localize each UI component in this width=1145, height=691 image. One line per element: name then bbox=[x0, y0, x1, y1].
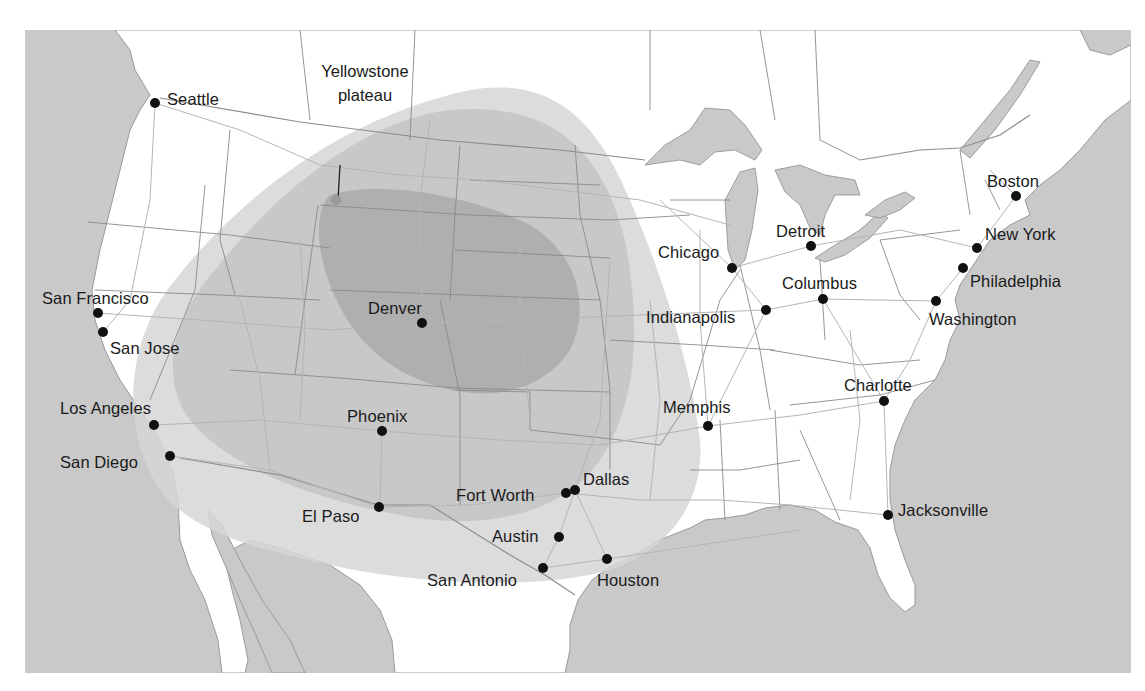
city-label-dallas: Dallas bbox=[583, 471, 629, 488]
city-dot-dallas bbox=[570, 485, 580, 495]
city-dot-memphis bbox=[703, 421, 713, 431]
city-dot-charlotte bbox=[879, 396, 889, 406]
city-dot-denver bbox=[417, 318, 427, 328]
city-label-chicago: Chicago bbox=[658, 244, 719, 261]
city-dot-los-angeles bbox=[149, 420, 159, 430]
city-label-san-antonio: San Antonio bbox=[427, 572, 517, 589]
city-dot-washington bbox=[931, 296, 941, 306]
city-dot-san-jose bbox=[98, 327, 108, 337]
city-dot-detroit bbox=[806, 241, 816, 251]
city-dot-columbus bbox=[818, 294, 828, 304]
city-label-indianapolis: Indianapolis bbox=[646, 309, 735, 326]
city-dot-austin bbox=[554, 532, 564, 542]
city-label-washington: Washington bbox=[929, 311, 1017, 328]
city-dot-phoenix bbox=[377, 426, 387, 436]
us-map: Yellowstone plateau bbox=[25, 30, 1131, 673]
city-dot-chicago bbox=[727, 263, 737, 273]
city-dot-el-paso bbox=[374, 502, 384, 512]
yellowstone-marker bbox=[331, 195, 341, 205]
yellowstone-label: Yellowstone plateau bbox=[305, 60, 425, 108]
city-dot-philadelphia bbox=[958, 263, 968, 273]
city-dot-boston bbox=[1011, 191, 1021, 201]
city-dot-indianapolis bbox=[761, 305, 771, 315]
map-canvas bbox=[25, 30, 1131, 673]
city-label-philadelphia: Philadelphia bbox=[970, 273, 1061, 290]
city-label-san-jose: San Jose bbox=[110, 340, 180, 357]
city-dot-san-diego bbox=[165, 451, 175, 461]
city-label-detroit: Detroit bbox=[776, 223, 825, 240]
city-label-san-francisco: San Francisco bbox=[42, 290, 149, 307]
city-label-los-angeles: Los Angeles bbox=[60, 400, 151, 417]
city-label-denver: Denver bbox=[368, 300, 422, 317]
city-label-seattle: Seattle bbox=[167, 91, 219, 108]
city-label-new-york: New York bbox=[985, 226, 1056, 243]
city-label-austin: Austin bbox=[492, 528, 538, 545]
city-label-phoenix: Phoenix bbox=[347, 408, 407, 425]
city-label-houston: Houston bbox=[597, 572, 659, 589]
city-label-fort-worth: Fort Worth bbox=[456, 487, 535, 504]
city-dot-san-francisco bbox=[93, 308, 103, 318]
yellowstone-label-line2: plateau bbox=[305, 84, 425, 108]
city-label-jacksonville: Jacksonville bbox=[898, 502, 988, 519]
city-dot-san-antonio bbox=[538, 563, 548, 573]
city-label-columbus: Columbus bbox=[782, 275, 857, 292]
city-dot-new-york bbox=[972, 243, 982, 253]
city-dot-jacksonville bbox=[883, 510, 893, 520]
city-label-charlotte: Charlotte bbox=[844, 377, 912, 394]
city-label-san-diego: San Diego bbox=[60, 454, 138, 471]
city-label-boston: Boston bbox=[987, 173, 1039, 190]
city-dot-seattle bbox=[150, 98, 160, 108]
city-label-el-paso: El Paso bbox=[302, 508, 360, 525]
city-dot-houston bbox=[602, 554, 612, 564]
yellowstone-label-line1: Yellowstone bbox=[305, 60, 425, 84]
city-label-memphis: Memphis bbox=[663, 399, 731, 416]
clipped-caption bbox=[0, 0, 1145, 6]
